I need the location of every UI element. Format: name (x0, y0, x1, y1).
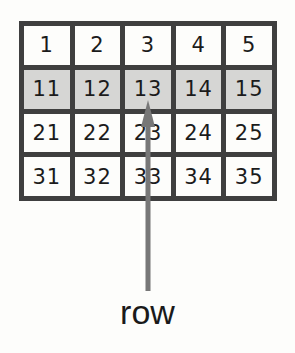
grid-cell: 33 (125, 157, 171, 196)
grid-cell: 35 (226, 157, 272, 196)
grid-cell: 24 (176, 114, 222, 153)
row-label: row (0, 292, 295, 332)
grid-cell: 21 (24, 114, 70, 153)
grid-cell-highlighted: 13 (125, 70, 171, 109)
grid-cell: 4 (176, 26, 222, 65)
grid-cell: 23 (125, 114, 171, 153)
grid-cell: 5 (226, 26, 272, 65)
grid-cell: 1 (24, 26, 70, 65)
grid-cell: 25 (226, 114, 272, 153)
grid-cell-highlighted: 15 (226, 70, 272, 109)
grid-cell: 22 (75, 114, 121, 153)
grid-cell: 3 (125, 26, 171, 65)
grid-cell-highlighted: 11 (24, 70, 70, 109)
grid-cell-highlighted: 12 (75, 70, 121, 109)
grid-cell: 2 (75, 26, 121, 65)
number-grid: 1 2 3 4 5 11 12 13 14 15 21 22 23 24 25 … (19, 21, 277, 201)
grid-cell: 32 (75, 157, 121, 196)
grid-cell: 34 (176, 157, 222, 196)
grid-cell-highlighted: 14 (176, 70, 222, 109)
grid-cell: 31 (24, 157, 70, 196)
